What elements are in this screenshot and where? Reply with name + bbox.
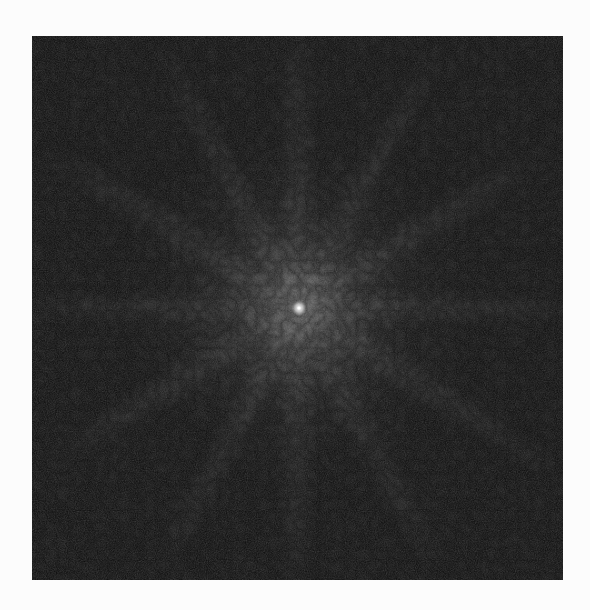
page <box>0 0 590 610</box>
spectrum-graphic <box>32 36 563 580</box>
center-point <box>297 306 300 309</box>
fourier-spectrum-image <box>32 36 563 580</box>
